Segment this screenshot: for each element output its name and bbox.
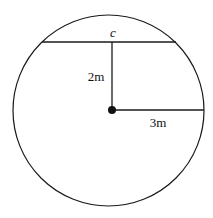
chord-label: c <box>110 25 116 40</box>
center-point <box>108 106 116 114</box>
distance-label: 2m <box>88 69 105 84</box>
diagram-canvas: c 2m 3m <box>0 0 213 218</box>
radius-label: 3m <box>150 115 167 130</box>
circle-diagram: c 2m 3m <box>0 0 213 218</box>
